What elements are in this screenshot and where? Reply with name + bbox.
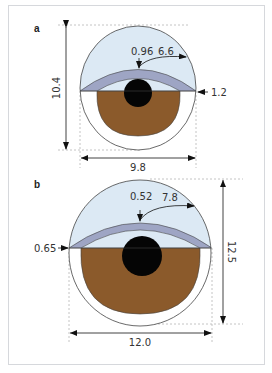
width-label-b: 12.0 xyxy=(129,337,151,348)
pupil-b xyxy=(122,236,162,276)
width-label-a: 9.8 xyxy=(130,162,146,173)
lid-radius-label-a: 6.6 xyxy=(158,46,174,57)
height-label-a: 10.4 xyxy=(51,77,62,99)
eye-a xyxy=(78,24,198,150)
lid-edge-label-a: 1.2 xyxy=(211,87,227,98)
panel-label-a: a xyxy=(34,23,40,34)
pupil-a xyxy=(124,79,152,107)
panel-label-b: b xyxy=(34,179,40,190)
eye-diagram: a 10.4 9. xyxy=(0,0,272,373)
lid-thickness-label-a: 0.96 xyxy=(131,46,153,57)
lid-edge-label-b: 0.65 xyxy=(34,243,56,254)
lid-thickness-label-b: 0.52 xyxy=(130,191,152,202)
height-label-b: 12.5 xyxy=(226,241,237,263)
panel-b: b 12.5 12.0 0.52 xyxy=(34,178,243,348)
panel-a: a 10.4 9. xyxy=(34,23,227,173)
lid-radius-label-b: 7.8 xyxy=(162,192,178,203)
